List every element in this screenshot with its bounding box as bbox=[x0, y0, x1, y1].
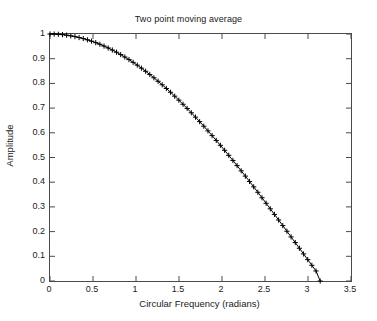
y-tick-label: 1 bbox=[3, 28, 45, 38]
y-tick-label: 0.2 bbox=[3, 226, 45, 236]
chart-figure: Two point moving average 00.10.20.30.40.… bbox=[0, 0, 377, 321]
plot-area bbox=[49, 33, 352, 282]
x-axis-tick-labels: 00.511.522.533.5 bbox=[49, 284, 350, 298]
x-tick-label: 3.5 bbox=[344, 284, 357, 294]
y-tick-label: 0.1 bbox=[3, 250, 45, 260]
y-tick-label: 0 bbox=[3, 275, 45, 285]
x-tick-label: 0.5 bbox=[86, 284, 99, 294]
x-axis-title: Circular Frequency (radians) bbox=[49, 298, 350, 309]
x-tick-label: 2 bbox=[218, 284, 223, 294]
x-tick-label: 3 bbox=[304, 284, 309, 294]
data-series-line bbox=[50, 34, 320, 281]
x-tick-label: 1 bbox=[132, 284, 137, 294]
y-tick-label: 0.8 bbox=[3, 77, 45, 87]
y-tick-label: 0.9 bbox=[3, 53, 45, 63]
chart-title: Two point moving average bbox=[0, 14, 377, 24]
y-tick-label: 0.3 bbox=[3, 201, 45, 211]
tick-marks-group bbox=[50, 34, 351, 281]
x-tick-label: 1.5 bbox=[172, 284, 185, 294]
plot-canvas bbox=[50, 34, 351, 281]
y-axis-title: Amplitude bbox=[4, 106, 15, 186]
x-tick-label: 2.5 bbox=[258, 284, 271, 294]
data-series-markers bbox=[47, 31, 322, 283]
x-tick-label: 0 bbox=[46, 284, 51, 294]
